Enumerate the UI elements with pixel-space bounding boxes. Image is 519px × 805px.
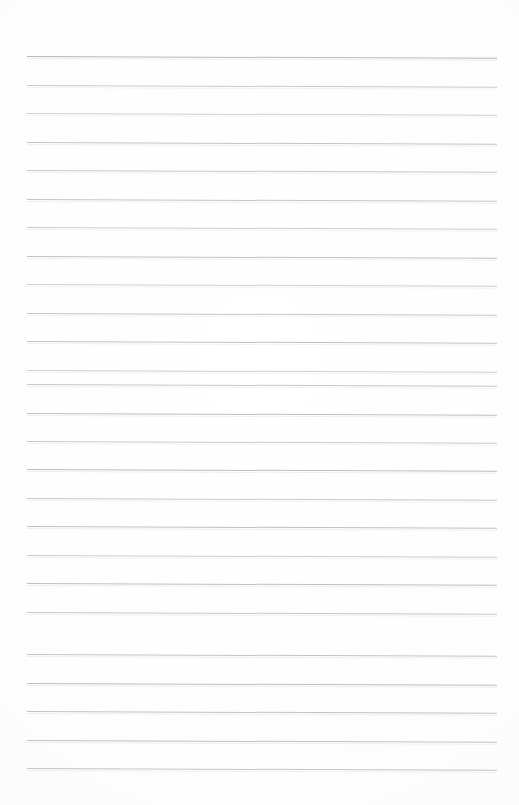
- ruled-line: [27, 370, 497, 373]
- ruled-line: [27, 256, 497, 259]
- ruled-line: [27, 413, 497, 416]
- ruled-line: [27, 555, 497, 558]
- ruled-line: [27, 56, 497, 59]
- ruled-line: [27, 142, 497, 145]
- ruled-lines-layer: [0, 0, 519, 805]
- ruled-line: [27, 683, 497, 686]
- ruled-line: [27, 170, 497, 173]
- ruled-line: [27, 768, 497, 771]
- ruled-line: [27, 113, 497, 116]
- ruled-line: [27, 711, 497, 714]
- ruled-line: [27, 612, 497, 615]
- ruled-line: [27, 341, 497, 344]
- scanned-page: [0, 0, 519, 805]
- ruled-line: [27, 384, 497, 387]
- ruled-line: [27, 441, 497, 444]
- ruled-line: [27, 740, 497, 743]
- ruled-line: [27, 199, 497, 202]
- ruled-line: [27, 583, 497, 586]
- ruled-line: [27, 654, 497, 657]
- ruled-line: [27, 284, 497, 287]
- ruled-line: [27, 526, 497, 529]
- ruled-line: [27, 85, 497, 88]
- ruled-line: [27, 469, 497, 472]
- ruled-line: [27, 227, 497, 230]
- ruled-line: [27, 313, 497, 316]
- ruled-line: [27, 498, 497, 501]
